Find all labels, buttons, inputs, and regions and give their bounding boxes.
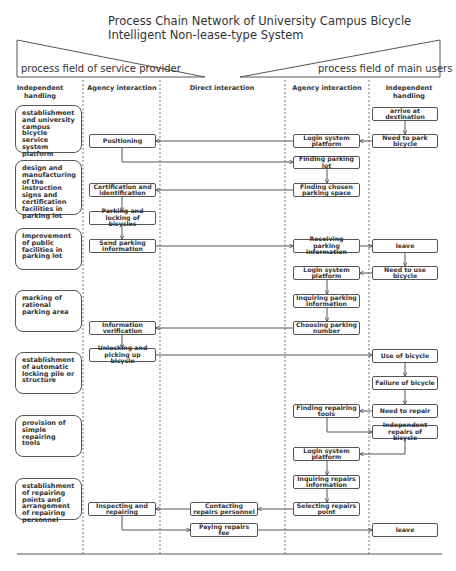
process-node-failure: Failure of bicycle <box>372 376 438 390</box>
process-node-login1: Login system platform <box>293 134 360 148</box>
process-node-use: Use of bicycle <box>372 349 438 363</box>
process-node-arrive: arrive at destination <box>372 107 438 121</box>
infrastructure-box: design and manufacturing of the instruct… <box>15 160 82 215</box>
process-node-info-verif: Information verification <box>89 321 156 335</box>
process-node-send-info: Send parking information <box>89 239 156 253</box>
process-node-inq-repair: Inquiring repairs information <box>293 475 360 489</box>
process-node-need-use: Need to use bicycle <box>372 266 438 280</box>
title-line-1: Process Chain Network of University Camp… <box>108 14 411 28</box>
process-node-login3: Login system platform <box>293 447 360 461</box>
infrastructure-box: establishment of repairing points and ar… <box>15 478 82 520</box>
infrastructure-box: establishment of automatic locking pile … <box>15 352 82 394</box>
process-node-choose-num: Choosing parking number <box>293 321 360 335</box>
flow-arrow <box>122 516 190 530</box>
process-node-unlock: Unlocking and picking up bicycle <box>89 348 156 362</box>
column-header-mu-agency: Agency interaction <box>287 84 367 92</box>
service-provider-field-label: process field of service provider <box>21 63 181 74</box>
process-node-leave1: leave <box>372 239 438 253</box>
process-node-positioning: Positioning <box>89 134 156 148</box>
main-users-field-label: process field of main users <box>318 63 452 74</box>
process-node-need-repair: Need to repair <box>372 404 438 418</box>
column-header-sp-independent: Independent handling <box>0 84 80 100</box>
infrastructure-box: establishment and university campus bicy… <box>15 105 82 153</box>
process-node-cert: Certification and identification <box>89 183 156 197</box>
process-node-find-lot: Finding parking lot <box>293 156 360 169</box>
title-line-2: Intelligent Non-lease-type System <box>108 28 411 42</box>
process-node-park-lock: Parking and locking of bicycles <box>89 211 156 225</box>
infrastructure-box: marking of rational parking area <box>15 290 82 332</box>
diagram-title: Process Chain Network of University Camp… <box>108 14 411 42</box>
column-header-sp-agency: Agency interaction <box>82 84 162 92</box>
process-node-pay: Paying repairs fee <box>190 523 258 537</box>
flow-arrow <box>327 418 372 432</box>
infrastructure-box: Improvement of public facilities in park… <box>15 228 82 270</box>
process-node-find-space: Finding chosen parking space <box>293 183 360 197</box>
process-node-inspect: Inspecting and repairing <box>88 502 156 516</box>
infrastructure-box: provision of simple repairing tools <box>15 415 82 457</box>
process-node-leave2: leave <box>372 523 438 537</box>
flow-edges <box>122 121 405 530</box>
process-node-need-park: Need to park bicycle <box>372 134 438 148</box>
process-node-recv-info: Receiving parking information <box>293 239 360 253</box>
column-header-direct: Direct interaction <box>182 84 262 92</box>
process-node-select-repair: Selecting repairs point <box>293 502 360 516</box>
process-node-find-tools: Finding repairing tools <box>293 404 360 418</box>
process-node-contact: Contacting repairs personnel <box>190 502 258 516</box>
process-node-login2: Login system platform <box>293 266 360 280</box>
process-node-indep-repair: Independent repairs of bicycle <box>372 425 438 439</box>
process-node-inq-park: Inquiring parking information <box>293 294 360 308</box>
column-header-mu-independent: Independent handling <box>369 84 449 100</box>
flow-arrow <box>122 148 293 162</box>
